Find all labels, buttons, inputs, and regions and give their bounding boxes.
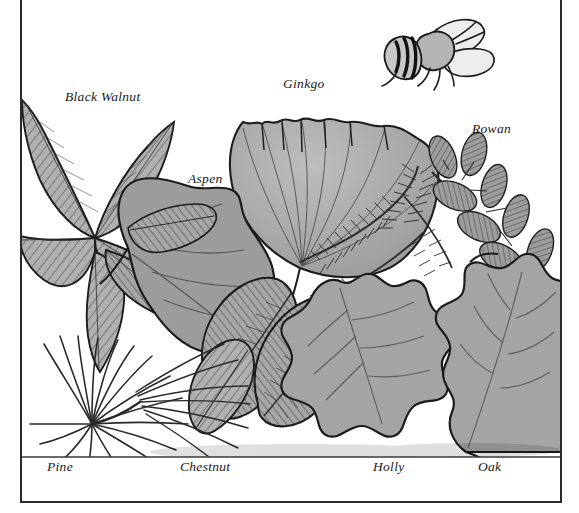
specimen-oak	[436, 253, 579, 470]
label-black-walnut: Black Walnut	[65, 89, 140, 105]
label-oak: Oak	[478, 459, 501, 475]
insect-bee	[382, 20, 494, 90]
label-pine: Pine	[47, 459, 73, 475]
label-rowan: Rowan	[472, 121, 511, 137]
label-holly: Holly	[373, 459, 405, 475]
label-aspen: Aspen	[188, 171, 223, 187]
label-chestnut: Chestnut	[180, 459, 230, 475]
illustration-plate: Black Walnut Aspen Ginkgo Rowan Pine Che…	[0, 0, 579, 513]
label-ginkgo: Ginkgo	[283, 76, 325, 92]
